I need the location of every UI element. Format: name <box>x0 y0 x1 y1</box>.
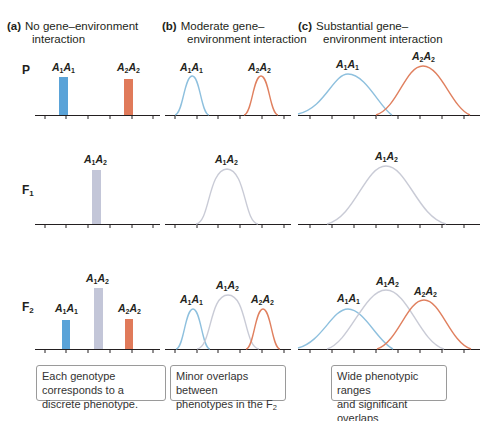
bar-f1-a1a2 <box>92 170 101 224</box>
label-c-p-a2a2: A2A2 <box>412 50 435 63</box>
label-b-p-a2a2: A2A2 <box>248 61 271 74</box>
label-b-p-a1a1: A1A1 <box>180 61 203 74</box>
bar-f2-a2a2 <box>125 319 133 349</box>
note-panel-a: Each genotype corresponds to a discrete … <box>36 365 166 401</box>
curve-c-p-a2a2 <box>376 66 470 115</box>
curve-c-f2-a2a2 <box>377 300 471 349</box>
label-a-f1-a1a2: A1A2 <box>84 153 107 166</box>
curve-b-f2-a2a2 <box>246 309 280 349</box>
label-b-f2-a1a1: A1A1 <box>180 293 203 306</box>
label-a-p-a2a2: A2A2 <box>117 61 140 74</box>
curve-b-p-a1a1 <box>175 76 209 115</box>
bar-f2-a1a1 <box>62 320 70 349</box>
curve-c-f1-a1a2 <box>327 166 446 224</box>
bar-p-a1a1 <box>59 77 68 115</box>
bar-p-a2a2 <box>124 79 133 115</box>
label-c-f2-a2a2: A2A2 <box>414 285 437 298</box>
label-b-f2-a1a2: A1A2 <box>216 279 239 292</box>
curve-b-f2-a1a2 <box>197 295 259 349</box>
label-a-f2-a1a2: A1A2 <box>86 272 109 285</box>
label-b-f2-a2a2: A2A2 <box>251 293 274 306</box>
curve-b-f2-a1a1 <box>176 309 210 349</box>
curve-c-p-a1a1 <box>298 74 392 115</box>
note-panel-c: Wide phenotypic rangesand significant ov… <box>331 365 447 401</box>
label-c-p-a1a1: A1A1 <box>336 58 359 71</box>
curve-c-f2-a1a1 <box>298 309 393 349</box>
label-c-f1-a1a2: A1A2 <box>375 150 398 163</box>
label-a-f2-a2a2: A2A2 <box>118 302 141 315</box>
curve-b-p-a2a2 <box>244 76 278 115</box>
label-a-p-a1a1: A1A1 <box>52 61 75 74</box>
label-c-f2-a1a1: A1A1 <box>337 292 360 305</box>
bar-f2-a1a2 <box>94 288 103 349</box>
label-a-f2-a1a1: A1A1 <box>55 302 78 315</box>
note-panel-b: Minor overlaps betweenphenotypes in the … <box>170 365 286 401</box>
curve-b-f1-a1a2 <box>196 169 258 224</box>
label-c-f2-a1a2: A1A2 <box>376 275 399 288</box>
label-b-f1-a1a2: A1A2 <box>215 153 238 166</box>
